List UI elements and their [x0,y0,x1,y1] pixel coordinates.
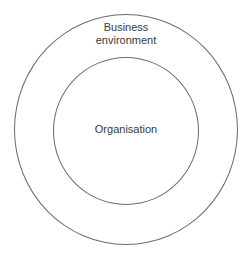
business-environment-label-line2: environment [76,34,176,47]
nested-circles-diagram: Business environment Organisation [0,0,249,257]
organisation-label: Organisation [76,123,176,136]
business-environment-label: Business environment [76,21,176,47]
business-environment-label-line1: Business [76,21,176,34]
